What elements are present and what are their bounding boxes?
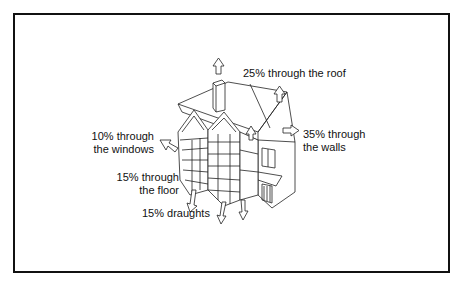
label-floor-line1: 15% through: [112, 171, 179, 184]
arrow-draughts-down-1: [217, 202, 226, 224]
label-roof-text: 25% through the roof: [243, 67, 346, 79]
label-walls-line2: the walls: [303, 141, 365, 154]
label-windows-line2: the windows: [88, 143, 154, 156]
label-roof: 25% through the roof: [243, 67, 346, 80]
label-windows-line1: 10% through: [88, 130, 154, 143]
arrow-chimney-up: [213, 58, 224, 74]
left-bay: [178, 110, 208, 195]
label-draughts-text: 15% draughts: [142, 207, 210, 219]
chimney: [213, 80, 225, 112]
label-draughts: 15% draughts: [142, 207, 210, 220]
arrow-draughts-down-2: [239, 200, 248, 220]
side-wing: [258, 140, 295, 208]
label-walls-line1: 35% through: [303, 128, 365, 141]
house-illustration: [0, 0, 460, 285]
label-floor-line2: the floor: [112, 184, 179, 197]
label-walls: 35% through the walls: [303, 128, 365, 153]
arrow-walls-right: [283, 125, 299, 136]
label-windows: 10% through the windows: [88, 130, 154, 155]
arrow-windows-left: [160, 140, 178, 152]
label-floor: 15% through the floor: [112, 171, 179, 196]
